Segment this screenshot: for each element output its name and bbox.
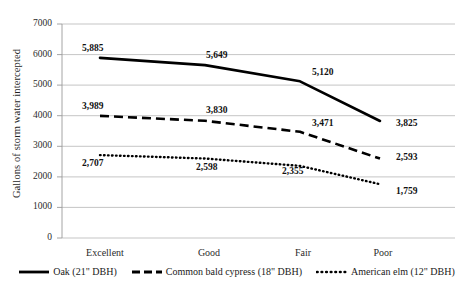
y-tick-0: 0 xyxy=(14,232,52,242)
y-tick-6000: 6000 xyxy=(14,49,52,59)
x-tick-excellent: Excellent xyxy=(60,247,150,258)
chart-figure: Gallons of storm water intercepted 7000 … xyxy=(0,0,473,292)
legend-label-oak: Oak (21" DBH) xyxy=(53,266,117,277)
data-label-oak-poor: 3,825 xyxy=(396,118,417,128)
series-line-elm xyxy=(100,155,380,184)
y-tick-1000: 1000 xyxy=(14,201,52,211)
gridlines xyxy=(62,24,455,238)
legend-swatch-dashed-icon xyxy=(131,267,163,277)
legend-item-oak[interactable]: Oak (21" DBH) xyxy=(18,266,117,277)
x-tick-good: Good xyxy=(164,247,254,258)
y-tick-4000: 4000 xyxy=(14,110,52,120)
x-tick-fair: Fair xyxy=(258,247,348,258)
x-tick-poor: Poor xyxy=(338,247,428,258)
y-axis-spine xyxy=(57,24,62,238)
data-label-oak-fair: 5,120 xyxy=(312,67,333,77)
data-label-cypress-poor: 2,593 xyxy=(396,152,417,162)
legend-swatch-solid-icon xyxy=(18,267,50,277)
data-label-elm-excellent: 2,707 xyxy=(82,158,103,168)
legend-swatch-dotted-icon xyxy=(316,267,348,277)
series-line-cypress xyxy=(100,116,380,159)
series-line-oak xyxy=(100,58,380,121)
y-tick-7000: 7000 xyxy=(14,18,52,28)
data-label-cypress-excellent: 3,989 xyxy=(82,101,103,111)
y-tick-2000: 2000 xyxy=(14,171,52,181)
data-label-elm-good: 2,598 xyxy=(196,162,217,172)
legend-label-elm: American elm (12" DBH) xyxy=(351,266,455,277)
y-tick-3000: 3000 xyxy=(14,140,52,150)
data-label-oak-excellent: 5,885 xyxy=(82,43,103,53)
data-label-oak-good: 5,649 xyxy=(206,50,227,60)
legend-label-cypress: Common bald cypress (18" DBH) xyxy=(166,266,302,277)
legend-item-cypress[interactable]: Common bald cypress (18" DBH) xyxy=(131,266,302,277)
data-label-cypress-good: 3,830 xyxy=(206,105,227,115)
y-tick-5000: 5000 xyxy=(14,79,52,89)
data-label-cypress-fair: 3,471 xyxy=(312,118,333,128)
data-label-elm-fair: 2,355 xyxy=(282,166,303,176)
legend-item-elm[interactable]: American elm (12" DBH) xyxy=(316,266,455,277)
chart-legend: Oak (21" DBH) Common bald cypress (18" D… xyxy=(0,266,473,277)
data-label-elm-poor: 1,759 xyxy=(396,186,417,196)
